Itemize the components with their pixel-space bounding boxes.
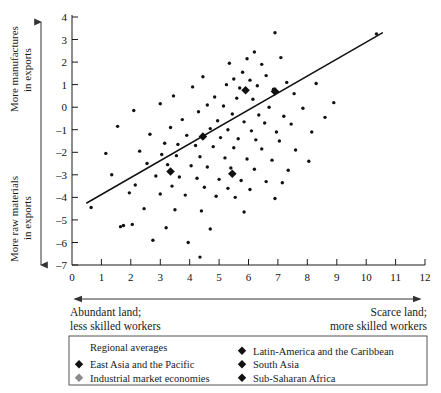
svg-text:11: 11	[390, 271, 401, 283]
data-point	[178, 175, 181, 178]
data-point	[138, 149, 141, 152]
data-point	[273, 197, 276, 200]
legend-item-east-asia-and-the-pacific[interactable]: East Asia and the Pacific	[75, 359, 195, 370]
data-point	[159, 192, 162, 195]
data-point	[256, 84, 259, 87]
x-axis-right-note-line2: more skilled workers	[330, 320, 428, 332]
data-point	[104, 152, 107, 155]
y-tick-minus1: –1	[55, 124, 78, 136]
x-tick-1: 1	[99, 259, 105, 283]
y-tick-minus6: –6	[55, 237, 78, 249]
svg-text:1: 1	[62, 79, 68, 91]
legend-item-label: Industrial market economies	[90, 373, 210, 384]
y-axis-top-label-line1: More manufactures	[8, 26, 20, 112]
data-point	[219, 136, 222, 139]
legend-item-latin-america-and-the-caribbean[interactable]: Latin-America and the Caribbean	[238, 346, 395, 357]
data-point	[176, 143, 179, 146]
data-point	[189, 164, 192, 167]
legend-item-label: East Asia and the Pacific	[90, 359, 195, 370]
svg-text:12: 12	[420, 271, 431, 283]
legend-item-label: South Asia	[253, 359, 299, 370]
x-tick-8: 8	[305, 259, 311, 283]
data-point	[170, 184, 173, 187]
data-point	[253, 50, 256, 53]
data-point	[187, 241, 190, 244]
data-point	[209, 127, 212, 130]
data-point	[173, 208, 176, 211]
svg-text:–5: –5	[55, 214, 68, 226]
svg-text:–6: –6	[55, 237, 68, 249]
legend-item-sub-saharan-africa[interactable]: Sub-Saharan Africa	[238, 373, 336, 384]
x-axis-right-note: Scarce land; more skilled workers	[330, 306, 428, 332]
data-point	[238, 86, 241, 89]
data-point	[251, 98, 254, 101]
data-point	[209, 227, 212, 230]
data-point	[241, 71, 244, 74]
data-point	[116, 125, 119, 128]
data-point	[89, 206, 92, 209]
data-point	[226, 128, 229, 131]
x-tick-7: 7	[275, 259, 281, 283]
data-point	[175, 154, 178, 157]
x-tick-5: 5	[216, 259, 222, 283]
svg-text:–2: –2	[55, 146, 67, 158]
svg-text:2: 2	[62, 56, 68, 68]
data-point	[260, 63, 263, 66]
data-point	[248, 78, 251, 81]
svg-text:–4: –4	[55, 191, 68, 203]
data-point	[216, 119, 219, 122]
data-point	[231, 112, 234, 115]
data-point	[201, 75, 204, 78]
data-point	[122, 224, 125, 227]
svg-text:–3: –3	[55, 169, 68, 181]
y-tick-0: 0	[62, 101, 79, 113]
y-tick-minus7: –7	[55, 259, 78, 271]
data-point	[206, 103, 209, 106]
data-point	[332, 101, 335, 104]
data-point	[260, 147, 263, 150]
legend-item-south-asia[interactable]: South Asia	[238, 359, 299, 370]
data-point	[145, 162, 148, 165]
data-point	[225, 83, 228, 86]
data-point	[228, 62, 231, 65]
data-point	[128, 191, 131, 194]
svg-text:9: 9	[334, 271, 340, 283]
x-tick-2: 2	[128, 259, 134, 283]
data-point	[232, 77, 235, 80]
data-point	[245, 57, 248, 60]
y-tick-1: 1	[62, 79, 79, 91]
regional-average-marker	[241, 86, 250, 95]
data-point	[279, 56, 282, 59]
svg-text:0: 0	[62, 101, 68, 113]
x-axis-left-note: Abundant land; less skilled workers	[70, 306, 161, 332]
y-axis-top-label: More manufactures in exports	[8, 26, 33, 112]
data-point	[154, 174, 157, 177]
data-point	[222, 104, 225, 107]
data-point	[132, 109, 135, 112]
legend-item-label: Sub-Saharan Africa	[253, 373, 336, 384]
x-tick-11: 11	[390, 259, 401, 283]
data-point	[285, 81, 288, 84]
data-point	[263, 121, 266, 124]
y-tick-minus4: –4	[55, 191, 78, 203]
svg-text:6: 6	[246, 271, 252, 283]
data-point	[282, 115, 285, 118]
legend-item-industrial-market-economies[interactable]: Industrial market economies	[75, 373, 210, 384]
svg-text:0: 0	[69, 271, 75, 283]
data-point	[275, 130, 278, 133]
scatter-plot-figure: More manufactures in exports More raw ma…	[0, 0, 441, 393]
data-point	[242, 210, 245, 213]
x-axis-left-note-line2: less skilled workers	[70, 320, 161, 332]
svg-text:10: 10	[361, 271, 373, 283]
data-point	[206, 165, 209, 168]
data-point	[235, 96, 238, 99]
data-point	[159, 102, 162, 105]
data-point	[253, 167, 256, 170]
data-point	[323, 116, 326, 119]
data-point	[232, 146, 235, 149]
data-point	[198, 155, 201, 158]
data-point	[267, 105, 270, 108]
x-tick-4: 4	[187, 259, 193, 283]
data-point	[234, 196, 237, 199]
y-axis-bottom-label-line1: More raw materials	[8, 176, 20, 262]
